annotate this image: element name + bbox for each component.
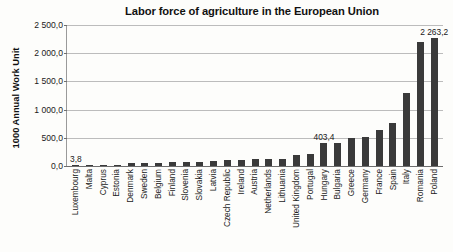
bar-slot: 3,8 — [69, 25, 83, 166]
category-label: Cyprus — [98, 169, 106, 195]
bar-slot — [386, 25, 400, 166]
category-slot: Estonia — [109, 169, 123, 241]
category-slot: Bulgaria — [330, 169, 344, 241]
category-label: Greece — [347, 169, 355, 196]
category-label: Italy — [402, 169, 410, 184]
category-slot: Belgium — [151, 169, 165, 241]
y-axis-title: 1000 Annual Work Unit — [11, 23, 21, 173]
category-label: Romania — [416, 169, 424, 202]
category-slot: Luxembourg — [68, 169, 82, 241]
category-label: Ireland — [237, 169, 245, 194]
bar-slot — [276, 25, 290, 166]
bar-slot — [221, 25, 235, 166]
category-label: Slovakia — [195, 169, 203, 200]
bar-slot: 2 263,2 — [427, 25, 441, 166]
bar — [403, 93, 410, 166]
category-slot: Lithuania — [275, 169, 289, 241]
bar — [293, 155, 300, 166]
bar-value-label: 2 263,2 — [420, 27, 448, 37]
category-label: Portugal — [306, 169, 314, 200]
category-slot: Sweden — [137, 169, 151, 241]
category-label: Poland — [430, 169, 438, 195]
category-label: Estonia — [112, 169, 120, 197]
category-label: Finland — [167, 169, 175, 196]
plot-area: 2 500,02 000,01 500,01 000,0500,00,0 3,8… — [66, 25, 443, 167]
bar-slot — [400, 25, 414, 166]
category-slot: Ireland — [234, 169, 248, 241]
category-label: Czech Republic — [223, 169, 231, 227]
bar — [362, 137, 369, 166]
bar — [376, 130, 383, 166]
bar-slot — [248, 25, 262, 166]
category-slot: Romania — [413, 169, 427, 241]
category-slot: Slovenia — [179, 169, 193, 241]
bar — [431, 38, 438, 166]
category-slot: Portugal — [303, 169, 317, 241]
chart-figure: Labor force of agriculture in the Europe… — [0, 0, 453, 252]
category-slot: Greece — [344, 169, 358, 241]
chart-title: Labor force of agriculture in the Europe… — [62, 5, 442, 17]
category-label: Belgium — [154, 169, 162, 199]
category-slot: Malta — [82, 169, 96, 241]
bar-slot — [110, 25, 124, 166]
bar-slot — [138, 25, 152, 166]
bar-slot — [331, 25, 345, 166]
category-label: Netherlands — [264, 169, 272, 214]
category-slot: Poland — [427, 169, 441, 241]
bar-series: 3,8403,42 263,2 — [67, 25, 443, 166]
category-slot: Denmark — [123, 169, 137, 241]
category-slot: Latvia — [206, 169, 220, 241]
category-label: Denmark — [126, 169, 134, 203]
category-slot: Italy — [400, 169, 414, 241]
category-label: Malta — [85, 169, 93, 189]
bar-slot — [97, 25, 111, 166]
category-slot: United Kingdom — [289, 169, 303, 241]
x-axis-line — [67, 166, 443, 167]
bar — [252, 159, 259, 166]
bar-slot — [207, 25, 221, 166]
bar-slot — [193, 25, 207, 166]
bar-slot — [290, 25, 304, 166]
bar-slot — [124, 25, 138, 166]
bar-slot — [262, 25, 276, 166]
bar-value-label: 3,8 — [70, 154, 82, 164]
category-slot: Netherlands — [261, 169, 275, 241]
bar-slot — [345, 25, 359, 166]
category-label: Lithuania — [278, 169, 286, 203]
bar-slot — [179, 25, 193, 166]
bar-slot — [152, 25, 166, 166]
y-tick-label: 1 000,0 — [34, 105, 63, 115]
bar — [389, 123, 396, 166]
y-tick-label: 1 500,0 — [34, 76, 63, 86]
bar — [307, 154, 314, 166]
category-slot: France — [372, 169, 386, 241]
category-slot: Austria — [248, 169, 262, 241]
category-slot: Slovakia — [192, 169, 206, 241]
category-label: Luxembourg — [71, 169, 79, 215]
bar-slot — [358, 25, 372, 166]
category-slot: Hungary — [317, 169, 331, 241]
bar-slot — [234, 25, 248, 166]
bar-slot: 403,4 — [317, 25, 331, 166]
y-tick-label: 2 000,0 — [34, 48, 63, 58]
category-label: Hungary — [319, 169, 327, 200]
category-label: Germany — [361, 169, 369, 203]
bar — [334, 143, 341, 166]
bar-slot — [372, 25, 386, 166]
bar-slot — [414, 25, 428, 166]
category-label: Latvia — [209, 169, 217, 191]
category-slot: Cyprus — [96, 169, 110, 241]
bar — [417, 42, 424, 166]
bar-slot — [165, 25, 179, 166]
category-label: Austria — [250, 169, 258, 195]
bar-slot — [303, 25, 317, 166]
bar — [320, 143, 327, 166]
y-tick-label: 500,0 — [41, 133, 63, 143]
bar — [279, 159, 286, 166]
category-slot: Germany — [358, 169, 372, 241]
x-axis-category-labels: LuxembourgMaltaCyprusEstoniaDenmarkSwede… — [66, 169, 443, 241]
category-label: United Kingdom — [292, 169, 300, 228]
bar — [348, 138, 355, 166]
category-label: Bulgaria — [333, 169, 341, 199]
category-label: France — [375, 169, 383, 195]
